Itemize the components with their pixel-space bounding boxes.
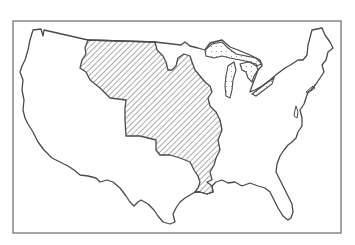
map-figure	[0, 0, 355, 245]
